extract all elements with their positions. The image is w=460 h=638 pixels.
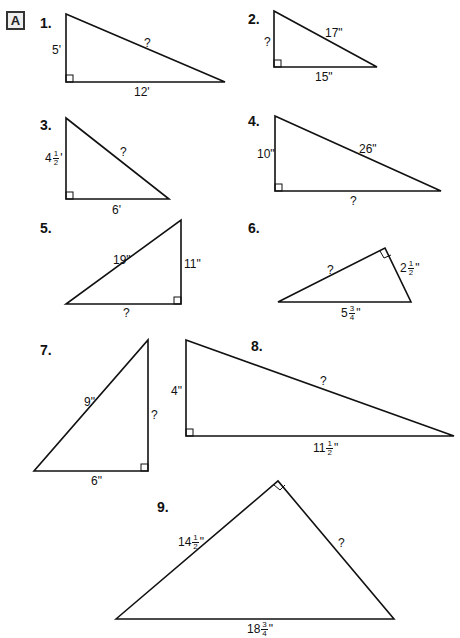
side-label-3b: 6' — [112, 204, 121, 216]
side-label-1a: 5' — [52, 44, 61, 56]
side-label-7b: 6" — [91, 475, 102, 487]
side-label-7c: 9" — [84, 396, 95, 408]
triangles-drawing — [0, 0, 460, 638]
unit: " — [356, 306, 360, 320]
fraction: 12 — [192, 534, 198, 551]
side-label-4b: ? — [350, 195, 357, 207]
side-label-1b: 12' — [134, 86, 150, 98]
side-label-5c: 19" — [113, 254, 131, 266]
triangle-3 — [66, 118, 169, 199]
side-label-8b: 1112" — [313, 440, 338, 457]
side-label-5b: ? — [123, 307, 130, 319]
side-label-4c: 26" — [359, 143, 377, 155]
denominator: 2 — [409, 269, 413, 277]
side-label-2c: 17" — [325, 27, 343, 39]
problem-number-1: 1. — [40, 16, 52, 30]
fraction: 12 — [53, 150, 59, 167]
problem-number-8: 8. — [251, 339, 263, 353]
problem-number-3: 3. — [40, 118, 52, 132]
triangle-6 — [278, 248, 411, 302]
triangle-8 — [186, 340, 454, 436]
side-label-7a: ? — [151, 409, 158, 421]
problem-number-7: 7. — [40, 343, 52, 357]
denominator: 2 — [327, 449, 331, 457]
triangle-4 — [275, 116, 441, 191]
side-label-3a: 412' — [45, 150, 62, 167]
whole: 2 — [400, 261, 407, 275]
side-label-6b: ? — [327, 264, 334, 276]
whole: 14 — [178, 535, 191, 549]
side-label-8c: ? — [320, 375, 327, 387]
denominator: 4 — [350, 314, 354, 322]
whole: 11 — [313, 441, 325, 455]
side-label-3c: ? — [120, 146, 127, 158]
unit: " — [334, 441, 338, 455]
problem-number-2: 2. — [248, 12, 260, 26]
side-label-2a: ? — [264, 36, 271, 48]
unit: " — [415, 261, 419, 275]
problem-number-9: 9. — [157, 500, 169, 514]
problem-number-5: 5. — [40, 221, 52, 235]
fraction: 34 — [261, 621, 267, 638]
side-label-6c: 534" — [341, 305, 360, 322]
side-label-9c: 1834" — [247, 621, 273, 638]
side-label-2b: 15" — [315, 71, 333, 83]
side-label-9a: 1412" — [178, 534, 204, 551]
problem-number-6: 6. — [248, 221, 260, 235]
unit: " — [200, 535, 204, 549]
whole: 4 — [45, 151, 52, 165]
side-label-5a: 11" — [184, 258, 201, 270]
unit: " — [269, 622, 273, 636]
side-label-4a: 10" — [257, 148, 275, 160]
unit: ' — [60, 151, 62, 165]
denominator: 4 — [262, 630, 266, 638]
whole: 18 — [247, 622, 260, 636]
side-label-6a: 212" — [400, 260, 419, 277]
side-label-8a: 4" — [171, 385, 182, 397]
whole: 5 — [341, 306, 348, 320]
problem-number-4: 4. — [248, 114, 260, 128]
side-label-1c: ? — [144, 37, 151, 49]
side-label-9b: ? — [338, 537, 345, 549]
fraction: 34 — [349, 305, 355, 322]
denominator: 2 — [54, 159, 58, 167]
fraction: 12 — [326, 440, 332, 457]
fraction: 12 — [408, 260, 414, 277]
denominator: 2 — [193, 543, 197, 551]
